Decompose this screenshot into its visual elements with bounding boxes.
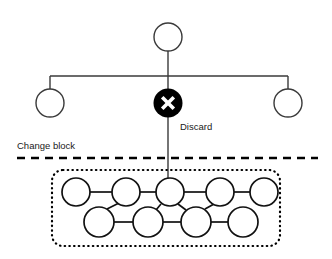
- block-node-bottom-3[interactable]: [228, 207, 258, 237]
- node-branch-right[interactable]: [274, 89, 302, 117]
- node-branch-left[interactable]: [36, 89, 64, 117]
- block-node-bottom-1[interactable]: [133, 207, 163, 237]
- block-node-top-3[interactable]: [206, 178, 234, 206]
- block-node-top-1[interactable]: [112, 178, 140, 206]
- block-edge-top2-bottom2: [178, 204, 186, 210]
- diagram-canvas: Discard Change block: [0, 0, 332, 259]
- tree-diagram: Discard Change block: [0, 0, 332, 259]
- node-discard[interactable]: [154, 89, 183, 118]
- tree-edges: [50, 51, 288, 192]
- node-root[interactable]: [154, 23, 182, 51]
- block-node-top-2[interactable]: [156, 178, 184, 206]
- block-node-bottom-2[interactable]: [181, 207, 211, 237]
- block-node-top-0[interactable]: [62, 178, 90, 206]
- change-block-label: Change block: [17, 140, 75, 151]
- discard-label: Discard: [180, 121, 212, 132]
- block-node-bottom-0[interactable]: [84, 207, 114, 237]
- block-node-top-4[interactable]: [250, 178, 278, 206]
